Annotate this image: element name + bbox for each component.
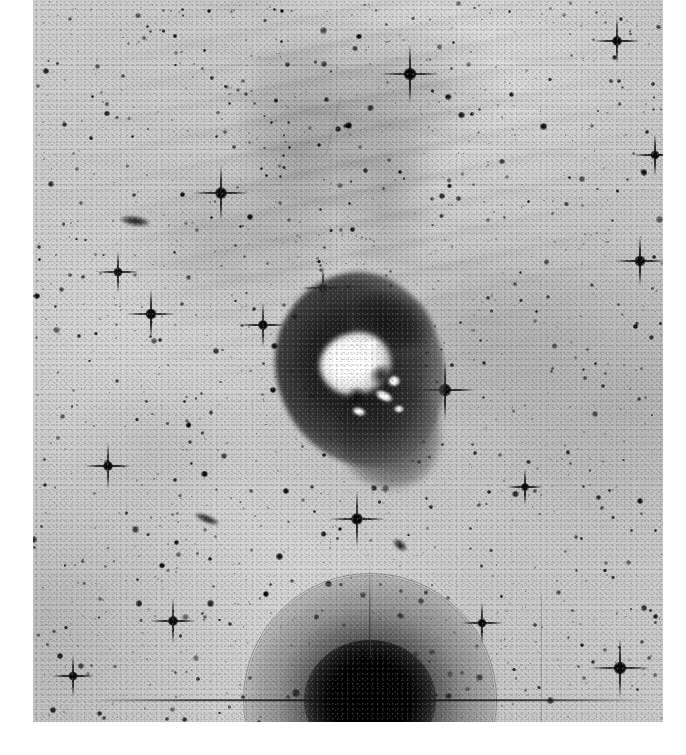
sky-survey-plate-image: [33, 0, 663, 722]
plate-frame: [0, 0, 686, 755]
emulsion-grain-light: [33, 0, 663, 722]
